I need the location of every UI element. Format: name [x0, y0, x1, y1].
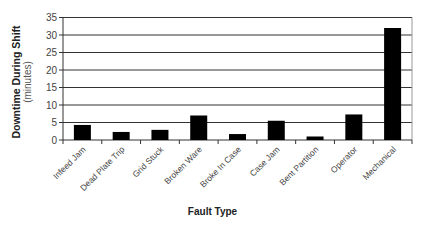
- y-axis-label: Downtime During Shift (minutes): [2, 12, 42, 152]
- plot-area: 05101520253035Infeed JamDead Plate TripG…: [0, 0, 425, 225]
- x-tick-label: Case Jam: [248, 144, 282, 178]
- y-axis-title: Downtime During Shift: [10, 25, 22, 138]
- bar: [229, 134, 246, 140]
- y-tick-label: 15: [46, 82, 58, 93]
- x-tick-label: Infeed Jam: [51, 144, 88, 181]
- y-axis-unit: (minutes): [22, 25, 34, 138]
- x-tick-label: Mechanical: [361, 144, 399, 182]
- x-tick-label: Broke In Case: [198, 144, 243, 189]
- x-tick-label: Broken Ware: [162, 144, 204, 186]
- bar: [384, 28, 401, 140]
- bar: [268, 121, 285, 140]
- bar: [74, 125, 91, 140]
- downtime-bar-chart: 05101520253035Infeed JamDead Plate TripG…: [0, 0, 425, 225]
- bar: [151, 130, 168, 140]
- y-tick-label: 0: [51, 135, 57, 146]
- y-tick-label: 35: [46, 12, 58, 23]
- y-tick-label: 20: [46, 65, 58, 76]
- bar: [345, 114, 362, 140]
- x-axis-title: Fault Type: [0, 206, 425, 217]
- y-tick-label: 25: [46, 47, 58, 58]
- x-tick-label: Grid Stuck: [130, 144, 166, 180]
- x-tick-label: Bent Partition: [277, 144, 320, 187]
- x-tick-label: Operator: [328, 144, 359, 175]
- bar: [307, 137, 324, 141]
- bar: [113, 132, 130, 140]
- y-tick-label: 5: [51, 117, 57, 128]
- bar: [190, 116, 207, 141]
- y-tick-label: 30: [46, 30, 58, 41]
- y-tick-label: 10: [46, 100, 58, 111]
